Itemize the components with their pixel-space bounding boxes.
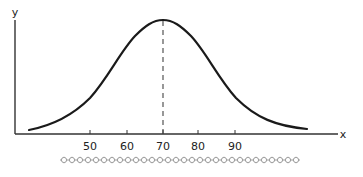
normal-distribution-chart: y x 50 60 70 80 90 <box>0 0 363 177</box>
tick-label-90: 90 <box>228 140 242 153</box>
decorative-chain-border <box>60 156 300 164</box>
y-axis-label: y <box>12 6 19 19</box>
tick-label-50: 50 <box>83 140 97 153</box>
tick-label-80: 80 <box>191 140 205 153</box>
x-tick-labels: 50 60 70 80 90 <box>83 140 242 153</box>
x-axis-label: x <box>340 128 347 141</box>
tick-label-70: 70 <box>156 140 170 153</box>
tick-label-60: 60 <box>120 140 134 153</box>
bell-curve <box>29 20 307 130</box>
